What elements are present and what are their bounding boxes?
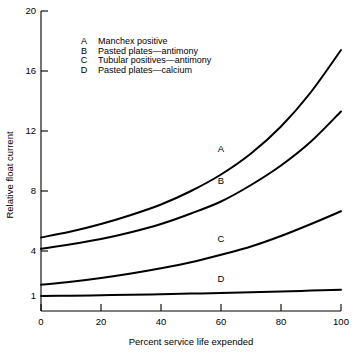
legend-key-c: C: [81, 55, 88, 65]
y-tick-label: 4: [31, 245, 36, 256]
x-tick-label: 100: [333, 316, 349, 327]
x-tick-label: 80: [276, 316, 287, 327]
x-tick-label: 40: [156, 316, 167, 327]
curve-label-a: A: [218, 143, 225, 154]
y-tick-label: 12: [25, 125, 36, 136]
legend-key-b: B: [81, 46, 87, 56]
y-tick-label: 20: [25, 5, 36, 16]
legend-label-a: Manchex positive: [98, 36, 168, 46]
x-axis-title: Percent service life expended: [129, 336, 254, 347]
legend-label-d: Pasted plates—calcium: [98, 65, 192, 75]
legend-key-a: A: [81, 36, 87, 46]
x-tick-label: 0: [38, 316, 43, 327]
y-tick-label: 16: [25, 65, 36, 76]
curve-label-d: D: [218, 273, 225, 284]
chart-container: 148121620 020406080100 ABCD AManchex pos…: [0, 0, 356, 353]
legend-key-d: D: [81, 65, 88, 75]
relative-float-current-chart: 148121620 020406080100 ABCD AManchex pos…: [0, 0, 356, 353]
x-tick-label: 60: [216, 316, 227, 327]
y-tick-label: 1: [31, 290, 36, 301]
x-tick-label: 20: [96, 316, 107, 327]
y-axis-title: Relative float current: [4, 131, 15, 218]
legend-label-c: Tubular positives—antimony: [98, 55, 212, 65]
curve-label-b: B: [218, 175, 224, 186]
curve-label-c: C: [218, 233, 225, 244]
legend-label-b: Pasted plates—antimony: [98, 46, 199, 56]
y-tick-label: 8: [31, 185, 36, 196]
